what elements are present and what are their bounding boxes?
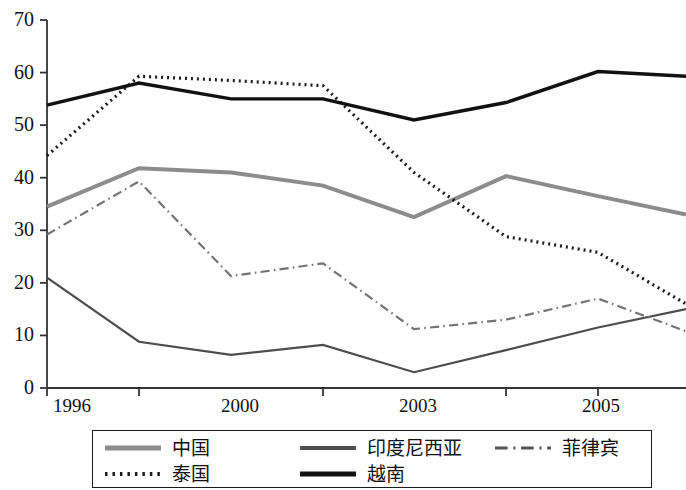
x-tick-label: 2000 [205, 396, 275, 415]
legend-entry: 菲律宾 [493, 435, 619, 461]
legend-entry: 中国 [103, 435, 210, 461]
legend-label: 印度尼西亚 [367, 439, 462, 458]
legend-label: 中国 [172, 439, 210, 458]
legend-line-swatch [298, 467, 358, 481]
legend-entry: 泰国 [103, 461, 210, 487]
legend-label: 菲律宾 [562, 439, 619, 458]
y-tick-label: 40 [0, 167, 34, 187]
y-tick-label: 30 [0, 219, 34, 239]
chart-plot-area [0, 0, 686, 490]
series-line-1 [47, 278, 686, 373]
y-tick-label: 70 [0, 9, 34, 29]
series-line-4 [47, 72, 686, 120]
legend-entry: 印度尼西亚 [298, 435, 462, 461]
legend-label: 泰国 [172, 465, 210, 484]
legend-line-swatch [493, 441, 553, 455]
series-line-2 [47, 181, 686, 331]
chart-legend: 中国印度尼西亚菲律宾泰国越南 [92, 430, 652, 488]
legend-label: 越南 [367, 465, 405, 484]
legend-line-swatch [298, 441, 358, 455]
legend-entries: 中国印度尼西亚菲律宾泰国越南 [93, 431, 651, 487]
line-chart: 010203040506070 1996200020032005 中国印度尼西亚… [0, 0, 686, 490]
y-tick-label: 50 [0, 114, 34, 134]
legend-line-swatch [103, 467, 163, 481]
y-tick-label: 10 [0, 324, 34, 344]
chart-series-group [47, 72, 686, 373]
series-line-0 [47, 168, 686, 217]
y-tick-label: 60 [0, 62, 34, 82]
legend-line-swatch [103, 441, 163, 455]
x-tick-label: 1996 [37, 396, 107, 415]
legend-entry: 越南 [298, 461, 405, 487]
y-tick-label: 20 [0, 272, 34, 292]
x-tick-label: 2005 [566, 396, 636, 415]
x-tick-label: 2003 [383, 396, 453, 415]
y-tick-label: 0 [0, 377, 34, 397]
